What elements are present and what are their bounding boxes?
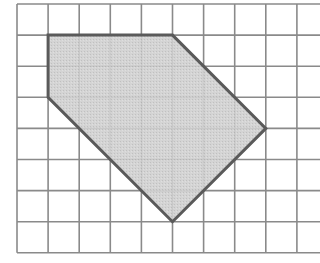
shaded-polygon xyxy=(48,35,266,222)
grid-diagram xyxy=(0,0,320,263)
